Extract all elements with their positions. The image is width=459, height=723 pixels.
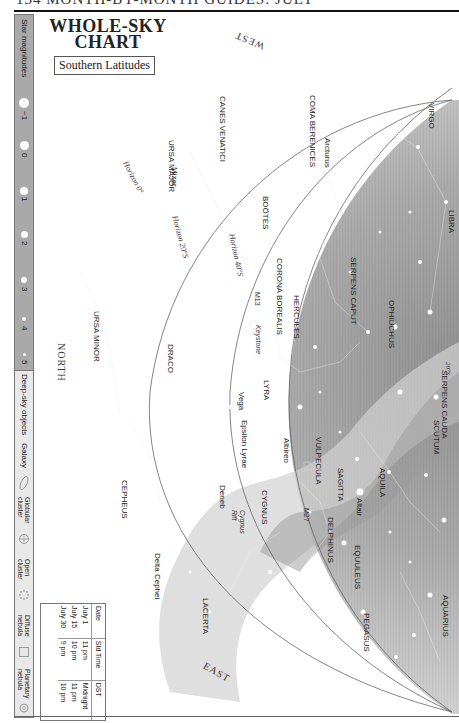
magnitude-label: 5 xyxy=(20,360,29,364)
magnitude-label: 4 xyxy=(20,326,29,330)
label-mizar: Mizar xyxy=(170,167,178,187)
label-corona-borealis: CORONA BOREALIS xyxy=(275,258,283,298)
label-ursa-minor: URSA MINOR xyxy=(92,311,100,331)
label-draco: DRACO xyxy=(166,344,174,373)
label-arcturus: Arcturus xyxy=(323,138,331,168)
magnitude-label: 3 xyxy=(20,287,29,291)
table-cell: July 1 xyxy=(80,604,92,638)
table-row: July 15 10 pm 11 pm xyxy=(69,604,80,720)
label-cygnus-rift: Cygnus Rift xyxy=(230,510,246,534)
label-altair: Altair xyxy=(355,498,363,516)
legend-sidebar: Star magnitudes −1 0 1 2 3 4 5 Deep-sky … xyxy=(14,14,34,718)
label-serpens-caput: SERPENS CAPUT xyxy=(349,257,357,297)
magnitude-dot-0 xyxy=(20,141,29,150)
label-vulpecula: VULPECULA xyxy=(314,437,322,485)
page-header: 134 MONTH-BY-MONTH GUIDES: JULY xyxy=(0,0,459,10)
table-header: Date xyxy=(92,604,106,638)
label-delta-cephei: Delta Cephei xyxy=(153,553,161,599)
label-pegasus: PEGASUS xyxy=(362,613,370,652)
table-row: July 30 9 pm 10 pm xyxy=(58,604,69,720)
label-libra: LIBRA xyxy=(447,210,455,233)
table-cell: 11 pm xyxy=(69,680,80,720)
label-canes-venatici: CANES VENATICI xyxy=(218,96,226,126)
observing-times-table: Date Std Time DST July 1 11 pm Midnight … xyxy=(40,603,106,721)
label-deneb: Deneb xyxy=(218,485,226,509)
magnitude-dot-3 xyxy=(21,277,27,283)
footer-rule xyxy=(14,716,459,717)
table-header-row: Date Std Time DST xyxy=(92,604,106,720)
label-lyra: LYRA xyxy=(262,380,270,400)
label-scutum: SCUTUM xyxy=(432,420,440,454)
label-serpens-cauda: SERPENS CAUDA xyxy=(440,370,448,410)
magnitude-dot-4 xyxy=(22,317,26,321)
table-cell: 10 pm xyxy=(69,638,80,680)
label-cygnus: CYGNUS xyxy=(260,490,268,524)
table-cell: 10 pm xyxy=(58,680,69,720)
label-keystone: Keystone xyxy=(254,325,262,354)
deep-sky-label: Open cluster xyxy=(17,559,31,585)
label-epsilon-lyrae: Epsilon Lyrae xyxy=(240,420,248,468)
label-bootes: BOÖTES xyxy=(261,196,269,229)
label-vega: Vega xyxy=(237,392,245,410)
direction-north: NORTH xyxy=(56,343,67,382)
deep-sky-legend: Deep-sky objects Galaxy Globular cluster… xyxy=(15,371,33,717)
label-virgo: VIRGO xyxy=(427,103,435,129)
magnitude-dot-2 xyxy=(21,231,28,238)
magnitude-dot-5 xyxy=(23,353,26,356)
table-cell: July 15 xyxy=(69,604,80,638)
times-table: Date Std Time DST July 1 11 pm Midnight … xyxy=(58,604,105,720)
label-aquarius: AQUARIUS xyxy=(441,595,449,637)
deep-sky-label: Planetary nebula xyxy=(17,669,31,699)
deep-sky-legend-title: Deep-sky objects xyxy=(20,374,29,435)
label-aquila: AQUILA xyxy=(378,468,386,497)
table-cell: 11 pm xyxy=(80,638,92,680)
label-equuleus: EQUULEUS xyxy=(353,545,361,589)
label-hercules: HERCULES xyxy=(292,295,300,339)
table-header: DST xyxy=(92,680,106,720)
magnitude-label: −1 xyxy=(20,111,29,120)
galaxy-icon xyxy=(18,475,30,491)
label-m27: M27 xyxy=(302,508,310,522)
magnitude-dot-minus1 xyxy=(19,98,29,108)
label-lacerta: LACERTA xyxy=(201,598,209,634)
label-sagitta: SAGITTA xyxy=(336,468,344,502)
planetary-nebula-icon xyxy=(18,702,30,714)
page-header-text: 134 MONTH-BY-MONTH GUIDES: JULY xyxy=(16,0,314,8)
deep-sky-label: Globular cluster xyxy=(17,497,31,527)
table-cell: 9 pm xyxy=(58,638,69,680)
table-cell: July 30 xyxy=(58,604,69,638)
magnitude-dot-1 xyxy=(20,187,28,195)
label-ophiuchus: OPHIUCHUS xyxy=(387,300,395,348)
magnitude-legend-title: Star magnitudes xyxy=(20,19,29,77)
deep-sky-label: Galaxy xyxy=(20,443,29,468)
label-albireo: Albireo xyxy=(282,438,290,463)
label-cepheus: CEPHEUS xyxy=(120,480,128,519)
label-m13: M13 xyxy=(253,292,261,306)
magnitude-label: 2 xyxy=(20,241,29,245)
chart-subtitle: Southern Latitudes xyxy=(54,56,155,75)
table-header: Std Time xyxy=(92,638,106,680)
open-cluster-icon xyxy=(18,589,30,601)
magnitude-label: 0 xyxy=(20,153,29,157)
table-cell: Midnight xyxy=(80,680,92,720)
table-row: July 1 11 pm Midnight xyxy=(80,604,92,720)
globular-cluster-icon xyxy=(18,533,30,545)
chart-title-block: WHOLE-SKY CHART Southern Latitudes xyxy=(48,18,168,75)
deep-sky-label: Diffuse nebula xyxy=(17,615,31,641)
magnitude-label: 1 xyxy=(20,197,29,201)
diffuse-nebula-icon xyxy=(18,646,30,658)
label-delphinus: DELPHINUS xyxy=(326,517,334,563)
magnitude-legend: Star magnitudes −1 0 1 2 3 4 5 xyxy=(15,15,33,371)
chart-title-line2: CHART xyxy=(48,34,168,50)
label-coma-berenices: COMA BERENICES xyxy=(308,95,316,167)
